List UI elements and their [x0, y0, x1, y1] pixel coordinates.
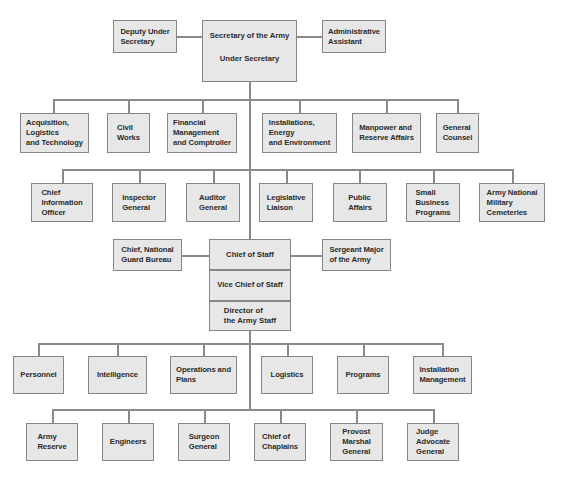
connector-drop	[433, 169, 435, 183]
connector-drop	[204, 409, 206, 423]
box-label: Logistics	[271, 370, 304, 380]
box-label: Engineers	[110, 437, 146, 447]
vice-chief-of-staff-cell: Vice Chief of Staff	[210, 270, 290, 300]
connector-row1-bus	[53, 99, 458, 101]
connector-secretary-admin	[297, 36, 322, 38]
connector-drop	[53, 99, 55, 113]
box-label: Army National Military Cemeteries	[487, 188, 538, 218]
connector-drop	[203, 343, 205, 356]
box-financial-management: Financial Management and Comptroller	[167, 113, 237, 153]
under-secretary-cell: Under Secretary	[203, 48, 296, 70]
connector-drop	[117, 343, 119, 356]
box-manpower-reserve-affairs: Manpower and Reserve Affairs	[352, 113, 421, 153]
connector-drop	[280, 409, 282, 423]
box-label: General Counsel	[443, 123, 473, 143]
box-civil-works: Civil Works	[107, 113, 150, 153]
secretary-cell: Secretary of the Army	[203, 25, 296, 47]
connector-drop	[38, 343, 40, 356]
chief-of-staff-label: Chief of Staff	[226, 250, 274, 260]
box-label: Public Affairs	[348, 193, 372, 213]
box-surgeon-general: Surgeon General	[178, 423, 230, 461]
box-label: Financial Management and Comptroller	[173, 118, 231, 148]
box-label: Installation Management	[420, 365, 466, 385]
connector-ngb-chief	[182, 255, 209, 257]
connector-drop	[386, 99, 388, 113]
chief-of-staff-cell: Chief of Staff	[210, 240, 290, 269]
box-label: Chief Information Officer	[41, 188, 82, 218]
connector-drop	[139, 169, 141, 183]
box-chief-of-chaplains: Chief of Chaplains	[254, 423, 306, 461]
connector-chief-sgm	[291, 255, 322, 257]
director-army-staff-cell: Director of the Army Staff	[210, 301, 290, 330]
under-secretary-label: Under Secretary	[220, 54, 279, 64]
box-programs: Programs	[337, 356, 389, 394]
box-engineers: Engineers	[102, 423, 154, 461]
connector-drop	[356, 409, 358, 423]
connector-drop	[433, 409, 435, 423]
box-label: Surgeon General	[189, 432, 219, 452]
box-label: Legislative Liaison	[267, 193, 306, 213]
box-small-business-programs: Small Business Programs	[406, 183, 460, 222]
box-label: Personnel	[20, 370, 56, 380]
box-acquisition-logistics-technology: Acquisition, Logistics and Technology	[20, 113, 89, 153]
box-legislative-liaison: Legislative Liaison	[259, 183, 313, 222]
connector-drop	[52, 409, 54, 423]
box-administrative-assistant: Administrative Assistant	[322, 20, 386, 53]
box-label: Intelligence	[97, 370, 138, 380]
connector-drop	[128, 99, 130, 113]
box-label: Operations and Plans	[176, 365, 231, 385]
box-chief-information-officer: Chief Information Officer	[31, 183, 93, 222]
connector-drop	[62, 169, 64, 183]
connector-main-trunk-upper	[249, 82, 251, 239]
connector-row2-bus	[62, 169, 513, 171]
box-label: Chief, National Guard Bureau	[121, 245, 173, 265]
box-label: Administrative Assistant	[328, 27, 380, 47]
box-label: Civil Works	[117, 123, 140, 143]
box-public-affairs: Public Affairs	[333, 183, 387, 222]
box-installation-management: Installation Management	[413, 356, 472, 394]
box-label: Inspector General	[122, 193, 156, 213]
box-chief-national-guard-bureau: Chief, National Guard Bureau	[113, 239, 182, 271]
box-army-reserve: Army Reserve	[26, 423, 78, 461]
box-label: Provost Marshal General	[342, 427, 370, 457]
box-label: Chief of Chaplains	[262, 432, 298, 452]
connector-drop	[442, 343, 444, 356]
box-logistics: Logistics	[261, 356, 313, 394]
box-label: Installations, Energy and Environment	[269, 118, 330, 148]
box-label: Judge Advocate General	[416, 427, 450, 457]
director-army-staff-label: Director of the Army Staff	[224, 306, 276, 326]
secretary-label: Secretary of the Army	[210, 31, 290, 41]
connector-drop	[363, 343, 365, 356]
box-label: Programs	[345, 370, 380, 380]
connector-drop	[287, 343, 289, 356]
box-sergeant-major-of-the-army: Sergeant Major of the Army	[322, 239, 391, 271]
connector-row4-bus	[38, 343, 443, 345]
box-label: Army Reserve	[37, 432, 66, 452]
connector-drop	[457, 99, 459, 113]
box-deputy-under-secretary: Deputy Under Secretary	[113, 20, 177, 53]
box-general-counsel: General Counsel	[436, 113, 479, 153]
connector-drop	[286, 169, 288, 183]
box-auditor-general: Auditor General	[186, 183, 240, 222]
connector-drop	[512, 169, 514, 183]
box-label: Auditor General	[199, 193, 227, 213]
connector-drop	[213, 169, 215, 183]
box-label: Acquisition, Logistics and Technology	[26, 118, 83, 148]
box-secretary-of-the-army: Secretary of the Army Under Secretary	[202, 20, 297, 82]
box-army-national-military-cemeteries: Army National Military Cemeteries	[479, 183, 545, 222]
box-provost-marshal-general: Provost Marshal General	[330, 423, 383, 461]
connector-row5-bus	[52, 409, 434, 411]
box-army-staff-leadership: Chief of Staff Vice Chief of Staff Direc…	[209, 239, 291, 331]
box-judge-advocate-general: Judge Advocate General	[407, 423, 459, 461]
box-operations-and-plans: Operations and Plans	[170, 356, 237, 394]
connector-drop	[299, 99, 301, 113]
vice-chief-of-staff-label: Vice Chief of Staff	[217, 280, 283, 290]
connector-drop	[128, 409, 130, 423]
box-label: Manpower and Reserve Affairs	[359, 123, 414, 143]
connector-drop	[202, 99, 204, 113]
box-label: Small Business Programs	[415, 188, 450, 218]
connector-drop	[359, 169, 361, 183]
connector-deputy-secretary	[177, 36, 202, 38]
box-intelligence: Intelligence	[88, 356, 147, 394]
box-label: Deputy Under Secretary	[120, 27, 169, 47]
